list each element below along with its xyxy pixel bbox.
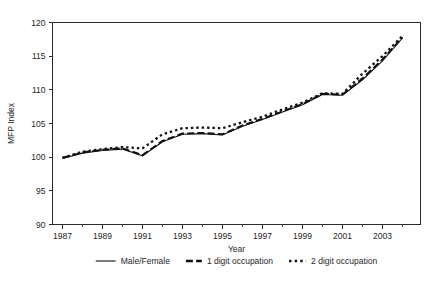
y-tick-label: 110	[32, 85, 46, 95]
x-tick-label: 2003	[373, 231, 392, 241]
x-tick-label: 1995	[213, 231, 232, 241]
legend-label-dashed: 1 digit occupation	[207, 256, 273, 266]
x-axis-title: Year	[228, 244, 245, 254]
y-tick-label: 95	[36, 186, 46, 196]
y-tick-label: 90	[36, 220, 46, 230]
x-tick-label: 1991	[133, 231, 152, 241]
x-tick-label: 1993	[173, 231, 192, 241]
mfp-index-chart: 9095100105110115120 19871989199119931995…	[0, 0, 435, 283]
y-tick-label: 100	[31, 152, 45, 162]
x-tick-label: 1987	[53, 231, 72, 241]
y-axis-title: MFP Index	[6, 102, 16, 144]
x-tick-label: 1989	[93, 231, 112, 241]
y-tick-label: 120	[31, 18, 45, 28]
x-tick-label: 1997	[253, 231, 272, 241]
chart-svg: 9095100105110115120 19871989199119931995…	[0, 0, 435, 283]
chart-legend: Male/Female1 digit occupation2 digit occ…	[96, 256, 378, 266]
legend-label-solid: Male/Female	[121, 256, 170, 266]
x-tick-label: 1999	[293, 231, 312, 241]
y-tick-label: 105	[31, 119, 45, 129]
x-tick-label: 2001	[333, 231, 352, 241]
legend-label-dotted: 2 digit occupation	[311, 256, 377, 266]
y-tick-label: 115	[32, 51, 46, 61]
chart-background	[0, 0, 435, 283]
